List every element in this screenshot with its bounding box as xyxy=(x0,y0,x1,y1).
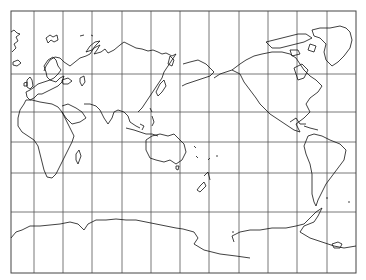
svalbard xyxy=(46,35,58,43)
britain xyxy=(27,77,33,89)
world-map xyxy=(0,0,366,280)
novaya-zemlya xyxy=(86,41,100,52)
scandinavia-russia-coast xyxy=(44,42,176,71)
alaska-aleutians xyxy=(182,60,232,86)
franz-josef xyxy=(80,35,93,36)
south-america xyxy=(304,134,346,206)
black-caspian xyxy=(62,76,85,86)
falklands xyxy=(326,198,350,202)
madagascar xyxy=(76,150,81,164)
antarctica-west xyxy=(11,219,183,238)
pacific-islands xyxy=(194,146,234,232)
arabia xyxy=(62,104,86,124)
east-asia-coast xyxy=(138,54,176,112)
antarctic-peninsula-island xyxy=(332,242,342,248)
gulf-caribbean xyxy=(290,118,318,130)
tasmania xyxy=(176,166,179,170)
greenland-west xyxy=(11,30,20,52)
north-america xyxy=(232,70,300,132)
north-america-east xyxy=(232,52,322,132)
arctic-archipelago xyxy=(266,34,316,56)
japan xyxy=(156,80,166,96)
indonesia xyxy=(126,124,158,136)
iceland xyxy=(13,60,21,66)
ireland xyxy=(24,82,27,86)
greenland-east xyxy=(312,26,352,66)
new-zealand xyxy=(197,172,210,192)
scandinavia xyxy=(44,57,61,80)
graticule xyxy=(11,11,356,273)
